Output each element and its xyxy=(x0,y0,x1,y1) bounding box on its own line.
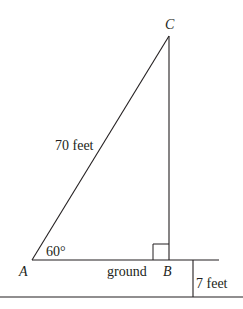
vertex-c-label: C xyxy=(165,17,175,32)
right-angle-marker xyxy=(153,244,169,260)
ground-label: ground xyxy=(107,264,147,279)
vertex-b-label: B xyxy=(163,264,172,279)
vertex-a-label: A xyxy=(18,264,28,279)
triangle-diagram: C A B 70 feet 60° ground 7 feet xyxy=(0,0,243,309)
hypotenuse-length-label: 70 feet xyxy=(55,138,94,153)
hypotenuse-ac xyxy=(32,36,169,260)
diagram-canvas: C A B 70 feet 60° ground 7 feet xyxy=(0,0,243,309)
height-offset-label: 7 feet xyxy=(196,276,228,291)
angle-a-label: 60° xyxy=(46,244,66,259)
